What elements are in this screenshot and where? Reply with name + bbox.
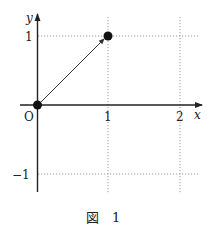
y-tick-1: 1	[25, 30, 33, 44]
y-axis-label: y	[25, 11, 33, 25]
coordinate-diagram: y x O 1 2 1 −1 図 1	[0, 0, 212, 232]
origin-point	[33, 101, 42, 110]
x-tick-1: 1	[104, 110, 112, 124]
figure-caption: 図 1	[86, 210, 120, 225]
x-axis-label: x	[194, 108, 201, 122]
point-1-1	[104, 32, 113, 41]
y-tick-neg1: −1	[12, 168, 30, 182]
origin-label: O	[24, 110, 34, 124]
vector-arrow	[40, 39, 104, 103]
x-tick-2: 2	[176, 110, 184, 124]
